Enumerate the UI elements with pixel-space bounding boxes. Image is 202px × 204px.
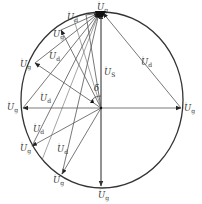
ud-vector-left (23, 13, 99, 108)
label-delta: δ (94, 84, 99, 93)
label-ud-lower-mid: ·Ud (57, 145, 68, 155)
phasor-diagram (0, 0, 202, 204)
label-ug-bottom: ·Ug (98, 191, 109, 201)
label-ud-topleft: ·Ud (67, 13, 78, 23)
label-ug-lower-mid: ·Ug (53, 176, 64, 186)
label-ud-lower-left: ·Ud (33, 125, 44, 135)
label-ug-top: ·Ug (97, 3, 108, 13)
label-ug-lower-left: ·Ug (20, 144, 31, 154)
label-ud-topright: ·Ud (141, 58, 152, 68)
label-ud-upper-left: ·Ud (49, 52, 60, 62)
label-ug-upper-left: ·Ug (53, 30, 64, 40)
label-ug-right: ·Ug (184, 104, 195, 114)
label-us-center: ·US (104, 68, 115, 78)
label-ud-left: ·Ud (40, 94, 51, 104)
label-ug-left: ·Ug (7, 103, 18, 113)
label-ug-left-upper: ·Ug (20, 60, 31, 70)
ug-vector-lower-mid (62, 108, 101, 174)
